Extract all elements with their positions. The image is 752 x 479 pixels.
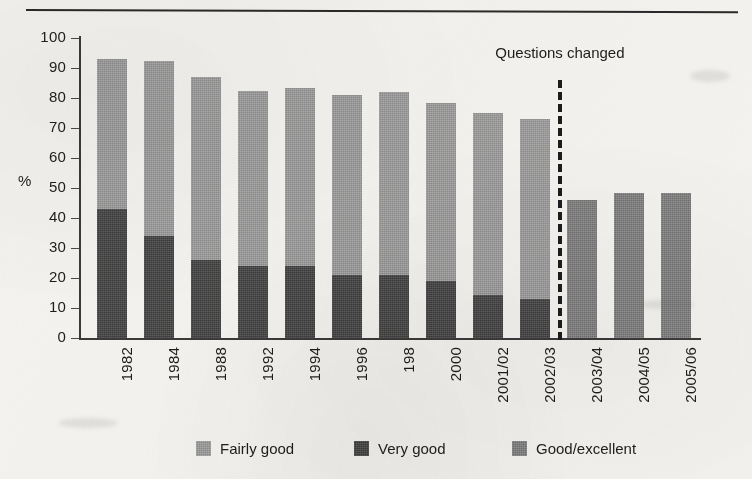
- bar-segment[interactable]: [238, 266, 268, 338]
- plot-area: 0102030405060708090100 % 198219841988199…: [0, 0, 752, 479]
- x-tick-label: 2001/02: [494, 347, 511, 403]
- bar-segment[interactable]: [473, 295, 503, 339]
- x-axis-line: [79, 338, 701, 340]
- bar-group[interactable]: [661, 193, 691, 339]
- x-tick-label: 198: [400, 347, 417, 373]
- y-tick-mark: [71, 278, 79, 279]
- legend-swatch-icon: [354, 441, 369, 456]
- bar-group[interactable]: [191, 77, 221, 338]
- legend-item[interactable]: Good/excellent: [512, 440, 636, 457]
- bar-segment[interactable]: [238, 91, 268, 267]
- x-tick-label: 2005/06: [682, 347, 699, 403]
- bar-segment[interactable]: [379, 275, 409, 338]
- bar-segment[interactable]: [97, 209, 127, 338]
- bar-segment[interactable]: [567, 200, 597, 338]
- y-tick-mark: [71, 308, 79, 309]
- bar-segment[interactable]: [614, 193, 644, 339]
- bar-segment[interactable]: [520, 299, 550, 338]
- bar-group[interactable]: [567, 200, 597, 338]
- bar-group[interactable]: [144, 61, 174, 339]
- bar-segment[interactable]: [426, 103, 456, 282]
- x-tick-label: 1984: [165, 347, 182, 381]
- bar-segment[interactable]: [191, 77, 221, 260]
- legend-item[interactable]: Very good: [354, 440, 446, 457]
- bar-group[interactable]: [238, 91, 268, 339]
- y-tick-mark: [71, 98, 79, 99]
- bar-group[interactable]: [426, 103, 456, 339]
- bar-segment[interactable]: [332, 95, 362, 275]
- bar-segment[interactable]: [97, 59, 127, 209]
- bar-segment[interactable]: [332, 275, 362, 338]
- y-tick-label: 90: [24, 58, 66, 75]
- legend-label: Fairly good: [220, 440, 294, 457]
- bar-segment[interactable]: [661, 193, 691, 339]
- bar-segment[interactable]: [426, 281, 456, 338]
- x-tick-label: 1996: [353, 347, 370, 381]
- x-tick-label: 1982: [118, 347, 135, 381]
- bar-group[interactable]: [473, 113, 503, 338]
- y-tick-label: 60: [24, 148, 66, 165]
- y-axis-tick-labels: 0102030405060708090100: [20, 0, 66, 479]
- legend-label: Very good: [378, 440, 446, 457]
- y-tick-label: 0: [24, 328, 66, 345]
- y-tick-mark: [71, 188, 79, 189]
- x-tick-label: 1988: [212, 347, 229, 381]
- y-tick-mark: [71, 248, 79, 249]
- y-tick-label: 20: [24, 268, 66, 285]
- bar-segment[interactable]: [473, 113, 503, 295]
- questions-changed-label: Questions changed: [495, 44, 624, 61]
- legend-swatch-icon: [512, 441, 527, 456]
- bar-group[interactable]: [332, 95, 362, 338]
- y-tick-label: 30: [24, 238, 66, 255]
- bar-group[interactable]: [285, 88, 315, 339]
- y-tick-mark: [71, 158, 79, 159]
- x-tick-label: 1994: [306, 347, 323, 381]
- y-tick-label: 10: [24, 298, 66, 315]
- y-tick-label: 80: [24, 88, 66, 105]
- y-tick-label: 40: [24, 208, 66, 225]
- legend-item[interactable]: Fairly good: [196, 440, 294, 457]
- bar-segment[interactable]: [144, 236, 174, 338]
- y-tick-label: 70: [24, 118, 66, 135]
- y-tick-mark: [71, 338, 79, 339]
- x-tick-label: 2004/05: [635, 347, 652, 403]
- bar-segment[interactable]: [285, 88, 315, 267]
- x-tick-label: 2000: [447, 347, 464, 381]
- bar-segment[interactable]: [144, 61, 174, 237]
- x-tick-label: 1992: [259, 347, 276, 381]
- y-tick-mark: [71, 128, 79, 129]
- y-axis-line: [79, 36, 81, 340]
- legend-swatch-icon: [196, 441, 211, 456]
- questions-changed-divider: [558, 80, 562, 340]
- bar-segment[interactable]: [285, 266, 315, 338]
- x-tick-label: 2002/03: [541, 347, 558, 403]
- y-tick-mark: [71, 218, 79, 219]
- bar-group[interactable]: [614, 193, 644, 339]
- y-axis-title: %: [18, 172, 31, 189]
- y-tick-mark: [71, 38, 79, 39]
- x-tick-label: 2003/04: [588, 347, 605, 403]
- bar-group[interactable]: [520, 119, 550, 338]
- bar-group[interactable]: [97, 59, 127, 338]
- bar-segment[interactable]: [191, 260, 221, 338]
- bar-segment[interactable]: [520, 119, 550, 299]
- legend-label: Good/excellent: [536, 440, 636, 457]
- y-tick-mark: [71, 68, 79, 69]
- bar-group[interactable]: [379, 92, 409, 338]
- chart-legend: Fairly goodVery goodGood/excellent: [0, 440, 752, 468]
- bar-segment[interactable]: [379, 92, 409, 275]
- y-tick-label: 100: [24, 28, 66, 45]
- chart-figure: 0102030405060708090100 % 198219841988199…: [0, 0, 752, 479]
